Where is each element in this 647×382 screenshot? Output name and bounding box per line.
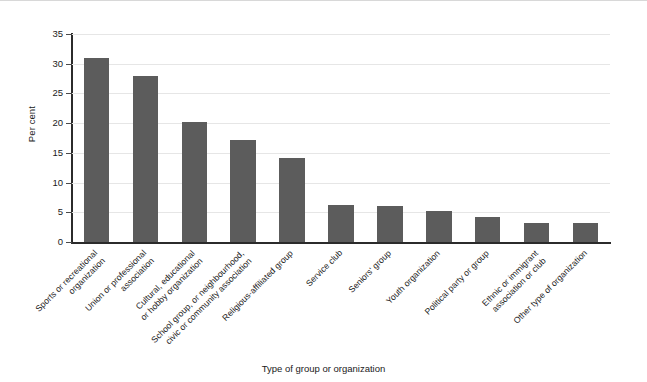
chart-screenshot: 05101520253035 Per cent Sports or recrea… bbox=[0, 0, 647, 382]
bar bbox=[230, 140, 255, 242]
x-axis-tick-label: Ethnic or immigrantassociation or club bbox=[480, 248, 548, 316]
x-axis-line bbox=[71, 242, 611, 244]
plot-area bbox=[72, 34, 610, 242]
bar bbox=[279, 158, 304, 242]
y-axis-tick-mark bbox=[66, 93, 72, 94]
x-axis-title: Type of group or organization bbox=[0, 363, 647, 374]
bar bbox=[475, 217, 500, 242]
y-axis-tick-label: 10 bbox=[23, 178, 63, 188]
y-axis-tick-label: 35 bbox=[23, 29, 63, 39]
x-axis-tick-label: Other type of organization bbox=[511, 248, 589, 326]
y-axis-tick-mark bbox=[66, 64, 72, 65]
bar bbox=[133, 76, 158, 242]
bar bbox=[426, 211, 451, 242]
bar bbox=[377, 206, 402, 242]
bar bbox=[182, 122, 207, 242]
x-axis-tick-label: Union or professionalassociation bbox=[83, 248, 156, 321]
bar bbox=[573, 223, 598, 242]
bar bbox=[524, 223, 549, 242]
y-axis-tick-label: 30 bbox=[23, 59, 63, 69]
y-axis-tick-labels: 05101520253035 bbox=[15, 1, 63, 382]
y-axis-tick-label: 15 bbox=[23, 148, 63, 158]
y-axis-tick-mark bbox=[66, 242, 72, 243]
y-axis-tick-mark bbox=[66, 123, 72, 124]
x-axis-tick-label: Seniors' group bbox=[346, 248, 393, 295]
x-axis-tick-label: School group, or neighbourhood,civic or … bbox=[149, 248, 253, 352]
y-axis-tick-mark bbox=[66, 183, 72, 184]
y-axis-tick-label: 5 bbox=[23, 207, 63, 217]
gridline bbox=[72, 64, 610, 65]
y-axis-tick-mark bbox=[66, 212, 72, 213]
x-axis-tick-label: Cultural, educationalor hobby organizati… bbox=[131, 248, 205, 322]
y-axis-tick-mark bbox=[66, 153, 72, 154]
y-axis-title: Per cent bbox=[26, 106, 42, 142]
x-axis-tick-label: Youth organization bbox=[384, 248, 442, 306]
x-axis-tick-label: Religious-affiliated group bbox=[220, 248, 295, 323]
bar bbox=[328, 205, 353, 242]
x-axis-tick-label: Political party or group bbox=[422, 248, 491, 317]
bar bbox=[84, 58, 109, 242]
y-axis-tick-mark bbox=[66, 34, 72, 35]
y-axis-tick-label: 25 bbox=[23, 88, 63, 98]
y-axis-tick-label: 0 bbox=[23, 237, 63, 247]
gridline bbox=[72, 34, 610, 35]
x-axis-tick-label: Service club bbox=[304, 248, 345, 289]
